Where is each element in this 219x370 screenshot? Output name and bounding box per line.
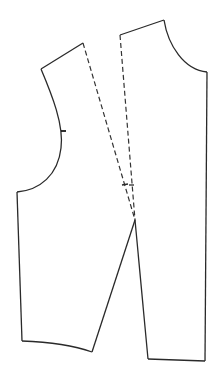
right-slash-line (135, 220, 148, 359)
right-pattern-piece (120, 20, 207, 361)
right-neckline-curve (164, 20, 207, 72)
pattern-diagram (0, 0, 219, 370)
left-hem (22, 341, 92, 352)
right-center-line (205, 72, 207, 361)
left-side-seam (17, 192, 22, 341)
right-shoulder-line (120, 20, 164, 35)
left-dart-leg (83, 43, 135, 220)
left-shoulder-line (41, 43, 83, 69)
left-armhole-curve (17, 69, 61, 192)
right-hem (148, 359, 205, 361)
left-pattern-piece (17, 43, 135, 352)
cross-mark-icon (122, 184, 128, 185)
left-slash-line (92, 220, 135, 352)
right-dart-leg (120, 35, 135, 220)
dart-cross-marks (122, 184, 134, 185)
